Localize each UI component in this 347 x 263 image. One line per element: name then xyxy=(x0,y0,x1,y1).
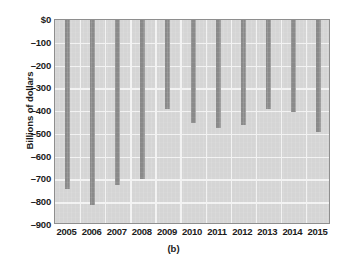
bar-2008 xyxy=(140,20,145,179)
gridline-vertical xyxy=(105,20,106,223)
bar-2010 xyxy=(191,20,196,123)
y-axis-tick-label: –600 xyxy=(31,150,51,161)
x-axis-tick-label: 2007 xyxy=(107,226,127,237)
gridline-vertical xyxy=(80,20,81,223)
bar-2012 xyxy=(241,20,246,125)
gridline-horizontal xyxy=(55,134,329,135)
gridline-horizontal xyxy=(55,157,329,158)
gridline-vertical xyxy=(155,20,156,223)
gridline-horizontal xyxy=(55,202,329,203)
x-axis-tick-label: 2006 xyxy=(82,226,102,237)
y-axis-tick-label: –300 xyxy=(31,82,51,93)
bar-2011 xyxy=(216,20,221,128)
figure-caption: (b) xyxy=(0,243,347,254)
y-axis-tick-label: $0 xyxy=(41,14,51,25)
x-axis-tick-label: 2013 xyxy=(257,226,277,237)
gridline-vertical xyxy=(281,20,282,223)
x-axis-tick-label: 2005 xyxy=(57,226,77,237)
gridline-vertical xyxy=(130,20,131,223)
x-axis-tick-label: 2015 xyxy=(307,226,327,237)
y-axis-tick-label: –500 xyxy=(31,127,51,138)
bar-2005 xyxy=(65,20,70,189)
x-axis-tick-label: 2008 xyxy=(132,226,152,237)
y-axis-tick-label: –100 xyxy=(31,36,51,47)
gridline-vertical xyxy=(206,20,207,223)
gridline-vertical xyxy=(180,20,181,223)
gridline-vertical xyxy=(256,20,257,223)
y-axis-tick-labels: $0–100–200–300–400–500–600–700–800–900 xyxy=(0,0,54,263)
x-axis-tick-label: 2010 xyxy=(182,226,202,237)
x-axis-tick-label: 2012 xyxy=(232,226,252,237)
bar-2014 xyxy=(291,20,296,112)
y-axis-tick-label: –700 xyxy=(31,173,51,184)
x-axis-tick-labels: 2005200620072008200920102011201220132014… xyxy=(0,226,347,242)
gridline-vertical xyxy=(231,20,232,223)
figure-container: Billions of dollars $0–100–200–300–400–5… xyxy=(0,0,347,263)
y-axis-tick-label: –400 xyxy=(31,105,51,116)
bar-2013 xyxy=(266,20,271,109)
gridline-horizontal xyxy=(55,179,329,180)
gridline-vertical xyxy=(306,20,307,223)
plot-area xyxy=(54,19,330,224)
x-axis-tick-label: 2011 xyxy=(207,226,226,237)
y-axis-tick-label: –200 xyxy=(31,59,51,70)
bar-2007 xyxy=(115,20,120,185)
bar-2009 xyxy=(165,20,170,109)
x-axis-tick-label: 2009 xyxy=(157,226,177,237)
bar-2015 xyxy=(316,20,321,132)
y-axis-tick-label: –800 xyxy=(31,196,51,207)
x-axis-tick-label: 2014 xyxy=(282,226,302,237)
bar-2006 xyxy=(90,20,95,205)
